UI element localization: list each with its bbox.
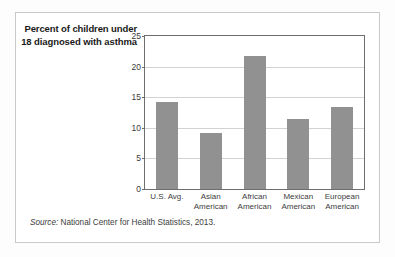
chart-title: Percent of children under 18 diagnosed w… bbox=[21, 23, 137, 48]
y-axis-tick-mark bbox=[142, 67, 145, 68]
figure-panel: Percent of children under 18 diagnosed w… bbox=[15, 12, 380, 243]
y-axis-tick-mark bbox=[142, 128, 145, 129]
y-axis-tick-mark bbox=[142, 36, 145, 37]
y-axis-tick-label: 5 bbox=[136, 153, 141, 163]
source-text: National Center for Health Statistics, 2… bbox=[61, 218, 216, 227]
bar bbox=[156, 102, 178, 189]
x-axis-category-label: European American bbox=[316, 192, 368, 211]
y-axis-tick-mark bbox=[142, 97, 145, 98]
y-axis-tick-mark bbox=[142, 158, 145, 159]
bar bbox=[244, 56, 266, 189]
bar bbox=[287, 119, 309, 189]
source-note: Source: National Center for Health Stati… bbox=[30, 218, 215, 227]
y-axis-tick-mark bbox=[142, 189, 145, 190]
y-axis-tick-label: 20 bbox=[132, 62, 141, 72]
y-axis-tick-label: 15 bbox=[132, 92, 141, 102]
bar bbox=[331, 107, 353, 189]
plot-area: 0510152025 U.S. Avg.Asian AmericanAfrica… bbox=[144, 35, 365, 190]
y-axis-tick-label: 25 bbox=[132, 31, 141, 41]
bar bbox=[200, 133, 222, 189]
source-label: Source: bbox=[30, 218, 58, 227]
y-axis-tick-label: 10 bbox=[132, 123, 141, 133]
